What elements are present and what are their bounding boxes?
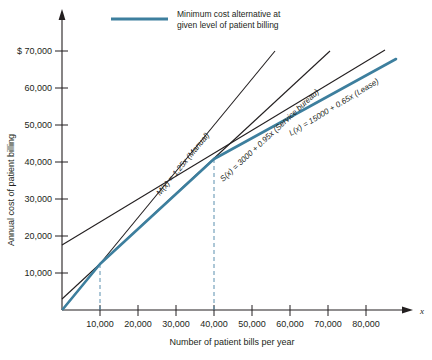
y-tick-label-70000: $ 70,000: [17, 46, 52, 56]
y-tick-label-10000: 10,000: [24, 268, 52, 278]
legend-label-line2: given level of patient billing: [177, 20, 279, 30]
x-tick-label-20000: 20,000: [124, 319, 152, 329]
x-axis-arrowhead: [402, 307, 413, 314]
y-tick-label-20000: 20,000: [24, 231, 52, 241]
x-tick-label-30000: 30,000: [162, 319, 190, 329]
y-tick-labels: $ 70,000 60,000 50,000 40,000 30,000 20,…: [17, 46, 52, 278]
x-axis-title: Number of patient bills per year: [169, 337, 294, 347]
y-tick-label-50000: 50,000: [24, 120, 52, 130]
chart-figure: $ 70,000 60,000 50,000 40,000 30,000 20,…: [0, 0, 432, 360]
x-tick-label-40000: 40,000: [200, 319, 228, 329]
y-tick-label-40000: 40,000: [24, 157, 52, 167]
cost-comparison-chart: $ 70,000 60,000 50,000 40,000 30,000 20,…: [0, 0, 432, 360]
x-tick-labels: 10,000 20,000 30,000 40,000 50,000 60,00…: [86, 319, 380, 329]
legend: Minimum cost alternative at given level …: [111, 9, 281, 30]
y-tick-label-60000: 60,000: [24, 83, 52, 93]
y-tick-label-30000: 30,000: [24, 194, 52, 204]
legend-label-line1: Minimum cost alternative at: [177, 9, 281, 19]
x-tick-label-60000: 60,000: [276, 319, 304, 329]
y-axis-arrowhead: [59, 9, 66, 20]
x-axis-variable-label: x: [419, 306, 424, 316]
y-axis-title: Annual cost of patient billing: [6, 134, 16, 246]
line-lease-cost: [62, 50, 385, 245]
x-tick-label-50000: 50,000: [238, 319, 266, 329]
breakeven-guides: [100, 158, 214, 310]
x-tick-label-70000: 70,000: [314, 319, 342, 329]
x-tick-label-10000: 10,000: [86, 319, 114, 329]
x-tick-label-80000: 80,000: [352, 319, 380, 329]
